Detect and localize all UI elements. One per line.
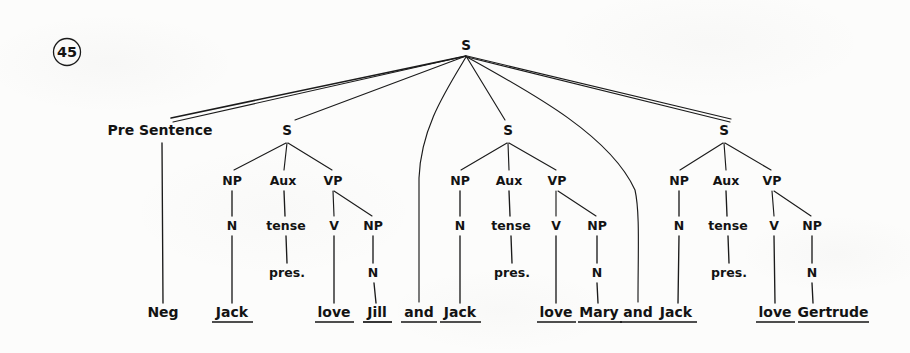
clause-1-node-NP-object: NP xyxy=(363,218,383,233)
pre-sentence-subtree: Pre Sentence Neg xyxy=(107,122,212,320)
conjunction-1: and xyxy=(401,304,437,322)
clause-2-node-pres: pres. xyxy=(494,265,530,280)
clause-3-node-NP: NP xyxy=(669,173,689,188)
clause-1-node-tense: tense xyxy=(266,218,305,233)
branch-root-to-pre-sentence-shadow xyxy=(173,56,466,122)
clause-3-branch-S-NP xyxy=(680,143,723,170)
terminal-neg: Neg xyxy=(147,304,178,320)
clause-3-node-VP: VP xyxy=(763,173,782,188)
clause-1-node-V: V xyxy=(329,218,339,233)
branch-root-to-clause-1 xyxy=(295,56,466,120)
clause-2: S NP Aux VP N tense V NP pres. N Jack xyxy=(440,122,622,322)
clause-1-node-N-subject: N xyxy=(227,218,237,233)
clause-1-branch-S-NP xyxy=(234,143,286,170)
clause-1-stem-N-to-jill xyxy=(374,283,376,303)
root-node-S: S xyxy=(461,37,471,53)
clause-2-node-NP-object: NP xyxy=(587,218,607,233)
clause-1-node-Aux: Aux xyxy=(270,173,297,188)
clause-1-terminal-object: Jill xyxy=(366,304,387,320)
clause-3-stem-N-to-gertrude xyxy=(812,283,813,303)
clause-2-node-N-object: N xyxy=(592,265,602,280)
clause-1-node-S: S xyxy=(282,122,292,138)
branch-root-to-clause-3 xyxy=(467,56,731,119)
clause-3-node-N-subject: N xyxy=(674,218,684,233)
clause-1-node-VP: VP xyxy=(324,173,343,188)
clause-3-terminal-object: Gertrude xyxy=(798,304,869,320)
clause-1-node-N-object: N xyxy=(368,265,378,280)
conjunction-2: and xyxy=(620,304,656,322)
clause-3-stem-tense-pres xyxy=(728,236,729,263)
clause-2-node-N-subject: N xyxy=(455,218,465,233)
clause-1-node-NP: NP xyxy=(222,173,242,188)
clause-2-branch-S-NP xyxy=(461,143,507,170)
clause-3-node-V: V xyxy=(769,218,779,233)
clause-1-terminal-subject: Jack xyxy=(215,304,249,320)
clause-2-stem-Aux-tense xyxy=(509,191,510,216)
clause-3-node-pres: pres. xyxy=(711,265,747,280)
clause-3-node-Aux: Aux xyxy=(713,173,740,188)
clause-3-stem-Aux-tense xyxy=(726,191,727,216)
clause-3-terminal-verb: love xyxy=(758,304,791,320)
clause-3-branch-VP-NP xyxy=(774,191,811,216)
clause-2-stem-N-to-mary xyxy=(597,283,598,303)
clause-2-branch-VP-NP xyxy=(558,191,596,216)
clause-1-stem-Aux-tense xyxy=(284,191,285,216)
clause-2-node-NP: NP xyxy=(450,173,470,188)
clause-1-branch-S-VP xyxy=(288,143,332,170)
clause-2-branch-S-Aux xyxy=(508,143,509,170)
clause-3-branch-S-VP xyxy=(725,143,771,170)
clause-3: S NP Aux VP N tense V NP pres. N Jack xyxy=(656,122,869,322)
conjunction-2-text: and xyxy=(623,304,652,320)
clause-2-stem-tense-pres xyxy=(511,236,512,263)
branch-root-to-clause-3-shadow xyxy=(467,57,730,122)
clause-1-branch-VP-V xyxy=(333,191,334,216)
branch-root-to-clause-2 xyxy=(466,56,505,120)
clause-3-terminal-subject: Jack xyxy=(659,304,693,320)
clause-2-node-tense: tense xyxy=(491,218,530,233)
clause-3-stem-V-to-love xyxy=(774,236,775,303)
clause-2-node-Aux: Aux xyxy=(496,173,523,188)
syntax-tree-diagram: 45 S Pre Sentence Neg xyxy=(0,0,910,353)
clause-3-node-tense: tense xyxy=(708,218,747,233)
clause-3-node-N-object: N xyxy=(807,265,817,280)
clause-1-branch-VP-NP xyxy=(334,191,372,216)
clause-2-node-S: S xyxy=(503,122,513,138)
clause-3-branch-S-Aux xyxy=(724,143,726,170)
figure-canvas: 45 S Pre Sentence Neg xyxy=(0,0,910,353)
clause-3-branch-VP-V xyxy=(772,191,774,216)
example-number: 45 xyxy=(54,39,81,66)
node-pre-sentence: Pre Sentence xyxy=(107,122,212,138)
clause-2-node-V: V xyxy=(551,218,561,233)
clause-2-terminal-object: Mary xyxy=(579,304,618,320)
clause-1: S NP Aux VP N tense V NP pres. N Jack xyxy=(212,122,392,322)
clause-3-stem-N-to-jack xyxy=(678,236,679,303)
stem-pre-sentence-to-neg xyxy=(162,143,163,303)
example-number-text: 45 xyxy=(57,44,77,60)
clause-3-node-NP-object: NP xyxy=(802,218,822,233)
clause-2-branch-S-VP xyxy=(509,143,556,170)
clause-1-stem-tense-pres xyxy=(286,236,287,263)
clause-1-terminal-verb: love xyxy=(317,304,350,320)
clause-3-node-S: S xyxy=(719,122,729,138)
clause-1-node-pres: pres. xyxy=(269,265,305,280)
clause-2-node-VP: VP xyxy=(548,173,567,188)
conjunction-1-text: and xyxy=(404,304,433,320)
clause-2-terminal-verb: love xyxy=(539,304,572,320)
clause-1-branch-S-Aux xyxy=(284,143,287,170)
clause-2-terminal-subject: Jack xyxy=(443,304,477,320)
branch-root-to-pre-sentence xyxy=(171,56,466,118)
